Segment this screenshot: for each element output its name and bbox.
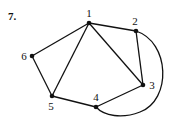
- graph-nodes: [30, 21, 146, 110]
- node-4: [94, 105, 99, 110]
- node-6: [30, 54, 35, 59]
- node-1: [87, 21, 92, 26]
- problem-number: 7.: [8, 10, 17, 22]
- node-label-5: 5: [48, 100, 54, 112]
- node-5: [50, 94, 55, 99]
- edge-1-2: [89, 23, 136, 31]
- node-2: [134, 29, 139, 34]
- graph-diagram: 7. 123456: [0, 0, 171, 125]
- node-3: [141, 83, 146, 88]
- node-label-2: 2: [132, 15, 138, 27]
- edge-4-3: [96, 85, 143, 107]
- node-label-6: 6: [21, 50, 27, 62]
- edge-6-5: [32, 56, 52, 96]
- edge-2-3: [136, 31, 143, 85]
- node-label-1: 1: [86, 7, 92, 19]
- edge-2-4: [96, 31, 163, 116]
- node-label-3: 3: [149, 79, 155, 91]
- node-label-4: 4: [93, 91, 99, 103]
- edge-5-4: [52, 96, 96, 107]
